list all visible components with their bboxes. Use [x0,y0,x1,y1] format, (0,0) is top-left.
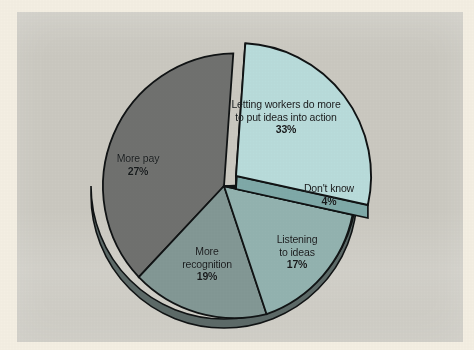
label-more-pay-percent: 27% [90,165,186,178]
label-more-pay: More pay 27% [90,152,186,177]
label-listening-line1: Listening [277,233,318,245]
label-listening-line2: to ideas [279,246,315,258]
pie-chart-svg [0,0,474,350]
label-dont-know: Don't know 4% [281,182,377,207]
label-listening-percent: 17% [252,258,342,271]
label-letting-workers-line1: Letting workers do more [231,98,340,110]
label-more-pay-line1: More pay [117,152,160,164]
label-more-recognition-line2: recognition [182,258,232,270]
label-dont-know-percent: 4% [281,195,377,208]
label-more-recognition: More recognition 19% [156,245,258,283]
label-more-recognition-percent: 19% [156,270,258,283]
label-listening-to-ideas: Listening to ideas 17% [252,233,342,271]
label-more-recognition-line1: More [195,245,218,257]
label-letting-workers-percent: 33% [206,123,366,136]
label-letting-workers-line2: to put ideas into action [235,111,336,123]
label-dont-know-line1: Don't know [304,182,354,194]
label-letting-workers: Letting workers do more to put ideas int… [206,98,366,136]
scanned-page: Letting workers do more to put ideas int… [0,0,474,350]
